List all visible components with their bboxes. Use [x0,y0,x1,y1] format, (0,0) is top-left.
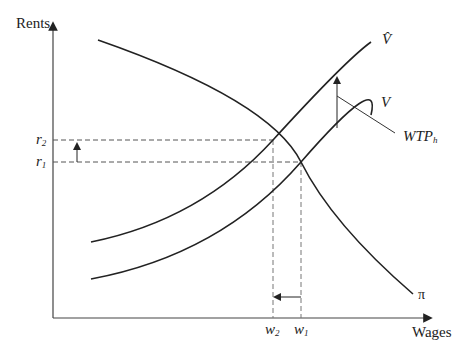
y-axis-label: Rents [16,16,50,31]
v-hat-label: V̂ [382,32,391,47]
curve-v [91,100,372,279]
r2-tick-label: r2 [36,132,46,148]
v-label: V [381,95,390,110]
diagram-canvas [0,0,464,349]
w2-tick-label: w2 [265,322,280,338]
pi-label: π [418,288,425,302]
w1-tick-label: w1 [294,322,309,338]
r1-tick-label: r1 [36,154,46,170]
x-axis-label: Wages [412,325,452,340]
curve-v-hat [91,42,371,242]
curve-pi [98,40,413,294]
wtp-label: WTPh [403,129,438,145]
